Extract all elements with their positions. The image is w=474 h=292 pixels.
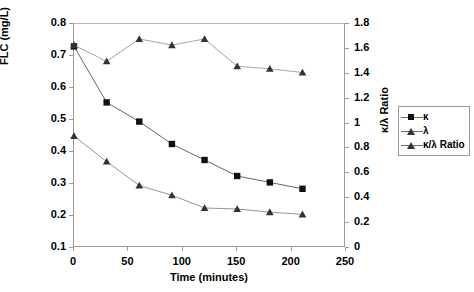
- legend-triangle-icon: [401, 139, 423, 151]
- y-axis-right-tick-label: 0.6: [354, 166, 394, 177]
- y-axis-right-tick: [345, 48, 349, 49]
- x-axis-tick: [127, 247, 128, 251]
- x-axis-tick: [291, 247, 292, 251]
- y-axis-left-tick: [69, 183, 73, 184]
- x-axis-tick-label: 200: [266, 256, 316, 267]
- y-axis-left-tick: [69, 87, 73, 88]
- y-axis-left-tick-label: 0.1: [26, 241, 66, 252]
- legend-square-icon: [401, 111, 423, 123]
- plot-area: [73, 23, 345, 247]
- y-axis-right-tick-label: 1: [354, 117, 394, 128]
- y-axis-right-tick: [345, 73, 349, 74]
- y-axis-left-tick-label: 0.5: [26, 113, 66, 124]
- legend-triangle-icon: [401, 125, 423, 137]
- y-axis-right-tick-label: 1.6: [354, 42, 394, 53]
- y-axis-right-tick-label: 0.2: [354, 216, 394, 227]
- y-axis-right-tick-label: 0.8: [354, 141, 394, 152]
- x-axis-tick-label: 250: [320, 256, 370, 267]
- series-1: [71, 43, 306, 192]
- x-axis-tick-label: 150: [211, 256, 261, 267]
- x-axis-tick-label: 50: [102, 256, 152, 267]
- y-axis-right-tick: [345, 23, 349, 24]
- y-axis-left-title: FLC (mg/L): [0, 0, 10, 96]
- x-axis-tick: [345, 247, 346, 251]
- y-axis-left-tick: [69, 215, 73, 216]
- chart-figure: FLC (mg/L) κ/λ Ratio Time (minutes) κλκ/…: [0, 0, 474, 292]
- y-axis-left-tick: [69, 119, 73, 120]
- series-canvas: [74, 24, 346, 248]
- y-axis-right-tick: [345, 197, 349, 198]
- legend-item-label: κ/λ Ratio: [423, 140, 465, 150]
- x-axis-tick-label: 100: [157, 256, 207, 267]
- series-3: [70, 35, 306, 75]
- y-axis-left-tick: [69, 55, 73, 56]
- legend-item[interactable]: λ: [401, 124, 466, 138]
- y-axis-left-tick-label: 0.3: [26, 177, 66, 188]
- legend-item[interactable]: κ/λ Ratio: [401, 138, 466, 152]
- y-axis-left-tick-label: 0.2: [26, 209, 66, 220]
- y-axis-left-tick-label: 0.8: [26, 17, 66, 28]
- y-axis-right-tick-label: 1.4: [354, 67, 394, 78]
- x-axis-tick-label: 0: [48, 256, 98, 267]
- chart-legend: κλκ/λ Ratio: [398, 106, 470, 156]
- series-2: [70, 132, 306, 217]
- y-axis-left-tick: [69, 151, 73, 152]
- legend-item-label: κ: [423, 112, 429, 122]
- y-axis-right-tick-label: 0.4: [354, 191, 394, 202]
- x-axis-tick: [236, 247, 237, 251]
- y-axis-right-tick-label: 1.2: [354, 92, 394, 103]
- x-axis-title: Time (minutes): [73, 271, 345, 283]
- x-axis-tick: [182, 247, 183, 251]
- y-axis-left-tick-label: 0.4: [26, 145, 66, 156]
- y-axis-right-tick-label: 1.8: [354, 17, 394, 28]
- y-axis-left-tick-label: 0.7: [26, 49, 66, 60]
- y-axis-right-tick: [345, 172, 349, 173]
- y-axis-right-tick: [345, 98, 349, 99]
- y-axis-right-tick: [345, 222, 349, 223]
- y-axis-left-tick-label: 0.6: [26, 81, 66, 92]
- y-axis-right-tick: [345, 147, 349, 148]
- y-axis-left-tick: [69, 23, 73, 24]
- y-axis-right-tick: [345, 123, 349, 124]
- y-axis-right-tick-label: 0: [354, 241, 394, 252]
- x-axis-tick: [73, 247, 74, 251]
- legend-item-label: λ: [423, 126, 429, 136]
- legend-item[interactable]: κ: [401, 110, 466, 124]
